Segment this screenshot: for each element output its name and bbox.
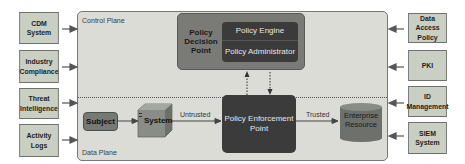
pep-line2: Point [225, 124, 294, 134]
dap-line1: Data Access [409, 14, 446, 32]
siem-line1: SIEM [415, 129, 439, 138]
resource-line2: Resource [340, 120, 382, 129]
siem-line2: System [415, 138, 439, 147]
enterprise-resource-label: Enterprise Resource [340, 111, 382, 130]
data-access-policy-box: Data AccessPolicy [408, 13, 447, 43]
resource-line1: Enterprise [340, 111, 382, 120]
subject-to-system-arrow [118, 119, 138, 124]
policy-enforcement-point: Policy EnforcementPoint [222, 95, 296, 153]
system-label: System [144, 116, 172, 125]
idm-line2: Management [406, 102, 448, 111]
siem-system-box: SIEMSystem [408, 122, 447, 154]
idm-line1: ID [406, 92, 448, 101]
untrusted-label: Untrusted [180, 111, 210, 118]
dap-line2: Policy [409, 33, 446, 42]
trusted-arrow [296, 119, 338, 124]
pep-line1: Policy Enforcement [225, 114, 294, 124]
trusted-label: Trusted [306, 111, 329, 118]
pki-line1: PKI [422, 61, 433, 70]
left-input-arrows [62, 26, 77, 143]
right-input-arrows [389, 26, 404, 139]
id-management-box: IDManagement [408, 86, 447, 117]
untrusted-arrow [172, 119, 221, 124]
pki-box: PKI [408, 50, 447, 81]
pdp-pep-dotted-arrows [247, 72, 270, 95]
